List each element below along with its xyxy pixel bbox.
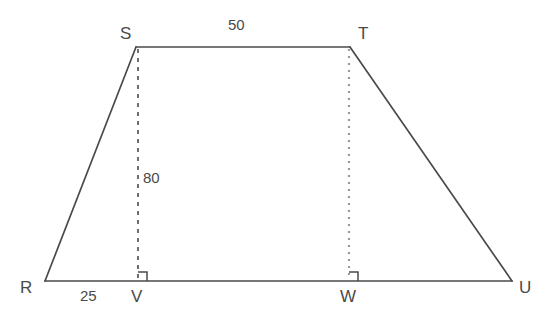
vertex-label-S: S [120, 25, 131, 42]
measure-label-top-side: 50 [228, 17, 245, 32]
vertex-label-T: T [358, 25, 368, 42]
vertex-label-U: U [519, 279, 531, 296]
vertex-label-R: R [20, 279, 32, 296]
right-angle-at-W-mark [349, 272, 358, 281]
measure-label-base-offset: 25 [80, 288, 97, 303]
trapezoid-drawing [0, 0, 540, 317]
side-RS-line [45, 47, 136, 281]
vertex-label-V: V [131, 288, 142, 305]
measure-label-altitude: 80 [143, 170, 160, 185]
geometry-figure: R S T U V W 50 80 25 [0, 0, 540, 317]
vertex-label-W: W [340, 288, 356, 305]
right-angle-at-V-mark [138, 272, 147, 281]
side-TU-line [350, 47, 512, 281]
